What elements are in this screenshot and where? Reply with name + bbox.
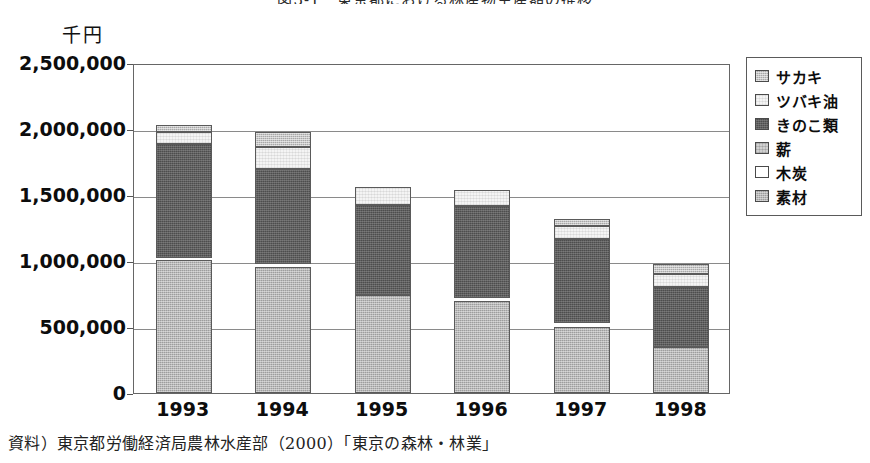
gridline [134, 131, 729, 132]
legend-item-maki[interactable]: 薪 [755, 136, 855, 160]
y-tick-label: 1,500,000 [19, 186, 126, 205]
bar-segment-1993-sakaki[interactable] [156, 125, 212, 132]
bar-1995[interactable] [355, 63, 411, 393]
bar-segment-1998-sozai[interactable] [653, 347, 709, 393]
x-tick-label: 1998 [630, 398, 730, 420]
legend-swatch-icon [755, 118, 769, 130]
y-tick-label: 0 [113, 384, 126, 403]
legend-item-mokutan[interactable]: 木炭 [755, 160, 855, 184]
legend-item-label: きのこ類 [776, 114, 838, 135]
chart-canvas: 2,500,0002,000,0001,500,0001,000,000500,… [0, 0, 870, 463]
bar-segment-1998-kinoko[interactable] [653, 287, 709, 347]
bar-segment-1996-sozai[interactable] [454, 301, 510, 393]
bar-segment-1993-tsubaki[interactable] [156, 132, 212, 144]
bar-segment-1996-tsubaki[interactable] [454, 190, 510, 206]
legend-swatch-icon [755, 190, 769, 202]
legend-item-tsubaki[interactable]: ツバキ油 [755, 88, 855, 112]
bar-segment-1997-tsubaki[interactable] [554, 226, 610, 239]
bar-segment-1995-kinoko[interactable] [355, 205, 411, 295]
bar-segment-1994-tsubaki[interactable] [255, 147, 311, 169]
bar-segment-1995-tsubaki[interactable] [355, 187, 411, 205]
legend-item-sakaki[interactable]: サカキ [755, 64, 855, 88]
legend-item-label: サカキ [776, 66, 823, 87]
source-note: 資料）東京都労働経済局農林水産部（2000）「東京の森林・林業」 [8, 430, 498, 454]
legend-item-sozai[interactable]: 素材 [755, 184, 855, 208]
bar-1993[interactable] [156, 63, 212, 393]
legend-item-label: 木炭 [776, 162, 807, 183]
bar-segment-1995-sozai[interactable] [355, 295, 411, 393]
legend-item-label: 素材 [776, 186, 807, 207]
bar-segment-1998-sakaki[interactable] [653, 264, 709, 274]
bar-segment-1994-kinoko[interactable] [255, 169, 311, 264]
y-axis-tick-labels: 2,500,0002,000,0001,500,0001,000,000500,… [0, 0, 126, 463]
bar-1996[interactable] [454, 63, 510, 393]
legend-swatch-icon [755, 70, 769, 82]
x-tick-label: 1994 [232, 398, 332, 420]
x-tick-label: 1997 [531, 398, 631, 420]
bar-1997[interactable] [554, 63, 610, 393]
bar-1994[interactable] [255, 63, 311, 393]
gridline [134, 263, 729, 264]
chart-legend: サカキツバキ油きのこ類薪木炭素材 [746, 57, 862, 216]
bar-segment-1997-sozai[interactable] [554, 327, 610, 393]
x-tick-label: 1993 [133, 398, 233, 420]
y-tick-label: 1,000,000 [19, 252, 126, 271]
bar-1998[interactable] [653, 63, 709, 393]
gridline [134, 197, 729, 198]
x-tick-label: 1996 [431, 398, 531, 420]
legend-item-label: ツバキ油 [776, 90, 838, 111]
y-tick-label: 2,500,000 [19, 54, 126, 73]
plot-area [133, 64, 730, 394]
legend-swatch-icon [755, 94, 769, 106]
y-tick-label: 2,000,000 [19, 120, 126, 139]
bar-segment-1998-tsubaki[interactable] [653, 274, 709, 287]
y-tick-mark [127, 394, 133, 395]
gridline [134, 329, 729, 330]
bar-segment-1994-sozai[interactable] [255, 267, 311, 393]
bar-segment-1997-sakaki[interactable] [554, 219, 610, 226]
bar-segment-1993-kinoko[interactable] [156, 144, 212, 258]
legend-swatch-icon [755, 166, 769, 178]
y-tick-label: 500,000 [39, 318, 126, 337]
bar-segment-1997-kinoko[interactable] [554, 239, 610, 323]
bar-segment-1996-kinoko[interactable] [454, 206, 510, 298]
bar-segment-1993-sozai[interactable] [156, 260, 212, 393]
bar-segment-1994-sakaki[interactable] [255, 132, 311, 147]
x-tick-label: 1995 [332, 398, 432, 420]
legend-item-kinoko[interactable]: きのこ類 [755, 112, 855, 136]
legend-swatch-icon [755, 142, 769, 154]
legend-item-label: 薪 [776, 138, 792, 159]
